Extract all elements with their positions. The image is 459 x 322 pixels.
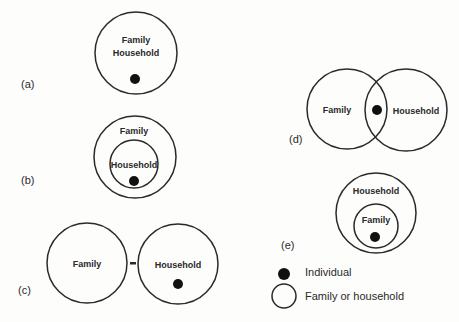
panel-b: (b) Family Household xyxy=(21,116,176,198)
family-label: Family xyxy=(323,105,352,115)
family-label: Family xyxy=(120,126,149,136)
panel-e: (e) Household Family xyxy=(281,173,416,253)
diagram-canvas: (a) Family Household (b) Family Househol… xyxy=(0,0,459,322)
panel-a-label: (a) xyxy=(21,78,34,90)
family-label: Family xyxy=(73,259,102,269)
household-label: Household xyxy=(113,48,160,58)
individual-dot-icon xyxy=(372,105,382,115)
panel-a: (a) Family Household xyxy=(21,12,177,94)
panel-d-label: (d) xyxy=(289,133,302,145)
panel-e-label: (e) xyxy=(281,239,294,251)
household-label: Household xyxy=(393,106,440,116)
individual-dot-icon xyxy=(370,232,380,242)
household-label: Household xyxy=(353,186,400,196)
family-label: Family xyxy=(362,215,391,225)
panel-c: (c) Family Household xyxy=(18,223,218,304)
household-label: Household xyxy=(155,260,202,270)
legend-individual-label: Individual xyxy=(305,266,351,278)
individual-dot-icon xyxy=(130,74,140,84)
legend-family-household-label: Family or household xyxy=(305,290,404,302)
separator-dash xyxy=(130,262,136,265)
legend: Individual Family or household xyxy=(272,266,404,308)
legend-individual-dot-icon xyxy=(278,268,290,280)
legend-family-household-circle-icon xyxy=(272,284,296,308)
panel-d: (d) Family Household xyxy=(289,69,447,151)
panel-c-label: (c) xyxy=(18,284,31,296)
household-label: Household xyxy=(111,160,158,170)
individual-dot-icon xyxy=(129,176,139,186)
individual-dot-icon xyxy=(173,279,183,289)
family-label: Family xyxy=(122,35,151,45)
panel-b-label: (b) xyxy=(21,174,34,186)
